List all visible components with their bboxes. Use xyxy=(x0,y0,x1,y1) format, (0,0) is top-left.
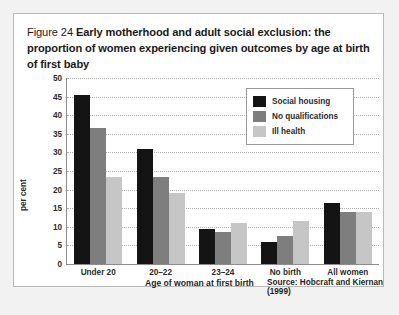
x-axis-tick-label: 20–22 xyxy=(125,268,197,277)
bar xyxy=(215,232,231,264)
y-axis-tick-label: 35 xyxy=(36,129,62,138)
bar xyxy=(277,236,293,264)
bar xyxy=(90,128,106,264)
bar xyxy=(74,95,90,264)
legend-item-label: Social housing xyxy=(272,97,330,106)
y-axis-tick-label: 25 xyxy=(36,167,62,176)
figure-frame: Figure 24 Early motherhood and adult soc… xyxy=(0,0,399,315)
legend-swatch-icon xyxy=(253,96,266,107)
bar xyxy=(356,212,372,264)
legend-item: Ill health xyxy=(253,124,348,139)
bar-group xyxy=(137,78,185,264)
y-axis-tick-label: 5 xyxy=(36,241,62,250)
x-axis-title: Age of woman at first birth xyxy=(145,278,254,288)
bar xyxy=(293,221,309,264)
figure-caption: Figure 24 Early motherhood and adult soc… xyxy=(27,24,373,72)
bar xyxy=(340,212,356,264)
legend-swatch-icon xyxy=(253,126,266,137)
bar xyxy=(106,177,122,264)
y-axis-tick-label: 10 xyxy=(36,222,62,231)
y-axis: per cent 05101520253035404550 xyxy=(32,78,62,264)
source-note: Source: Hobcraft and Kiernan (1999) xyxy=(267,278,383,296)
x-axis-tick-label: Under 20 xyxy=(62,268,134,277)
y-axis-tick-label: 50 xyxy=(36,74,62,83)
figure-panel: Figure 24 Early motherhood and adult soc… xyxy=(13,13,384,287)
bar xyxy=(137,149,153,264)
bar xyxy=(169,193,185,264)
x-axis-tick-label: No birth xyxy=(249,268,321,277)
legend-item-label: Ill health xyxy=(272,127,305,136)
y-axis-tick-label: 20 xyxy=(36,185,62,194)
bar xyxy=(153,177,169,264)
y-axis-tick-label: 15 xyxy=(36,204,62,213)
figure-number: Figure 24 xyxy=(27,26,73,38)
bar-group xyxy=(74,78,122,264)
x-axis-tick-label: 23–24 xyxy=(187,268,259,277)
bar xyxy=(324,203,340,264)
bar xyxy=(199,229,215,264)
y-axis-tick-label: 0 xyxy=(36,260,62,269)
bar-group xyxy=(199,78,247,264)
legend-item: No qualifications xyxy=(253,109,348,124)
y-axis-tick-label: 30 xyxy=(36,148,62,157)
x-axis-tick-label: All women xyxy=(312,268,384,277)
y-axis-tick-label: 45 xyxy=(36,92,62,101)
figure-title: Early motherhood and adult social exclus… xyxy=(27,26,370,70)
legend-swatch-icon xyxy=(253,111,266,122)
y-axis-title: per cent xyxy=(19,179,28,211)
bar xyxy=(231,223,247,264)
bar xyxy=(261,242,277,264)
legend-item-label: No qualifications xyxy=(272,112,338,121)
chart-legend: Social housingNo qualificationsIll healt… xyxy=(246,88,354,145)
legend-item: Social housing xyxy=(253,94,348,109)
y-axis-tick-label: 40 xyxy=(36,111,62,120)
